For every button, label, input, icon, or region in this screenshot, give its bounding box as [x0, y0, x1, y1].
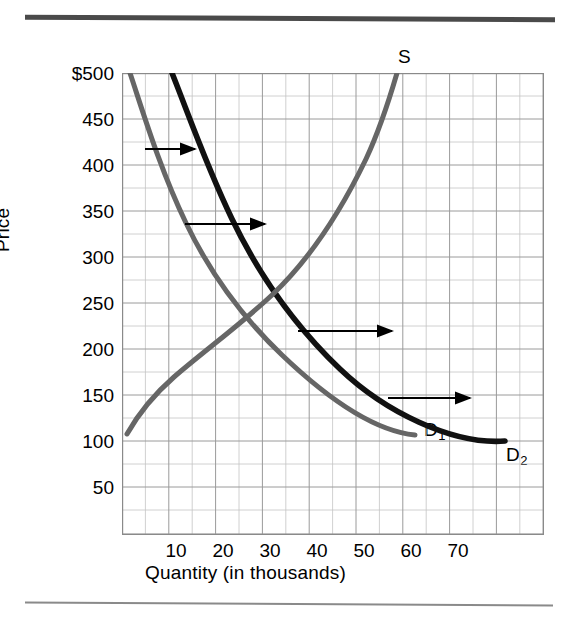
y-tick-50: 50 [44, 478, 114, 497]
x-tick-10: 10 [156, 541, 196, 560]
y-tick-500: $500 [44, 64, 114, 83]
x-tick-50: 50 [344, 541, 384, 560]
y-tick-250: 250 [44, 294, 114, 313]
y-tick-450: 450 [44, 110, 114, 129]
x-tick-60: 60 [391, 541, 431, 560]
y-axis-label: Price [0, 208, 14, 252]
plot-area [122, 73, 544, 535]
x-tick-30: 30 [250, 541, 290, 560]
grid-minor [122, 73, 544, 535]
y-tick-200: 200 [44, 340, 114, 359]
x-axis-tick-labels: 10 20 30 40 50 60 70 [122, 541, 544, 567]
y-tick-400: 400 [44, 156, 114, 175]
y-axis-tick-labels: $500 450 400 350 300 250 200 150 100 50 [44, 73, 114, 535]
y-tick-350: 350 [44, 202, 114, 221]
figure-bottom-rule [25, 601, 553, 606]
supply-curve-label: S [398, 47, 411, 66]
figure-container: Price Quantity (in thousands) $500 450 4… [0, 0, 581, 631]
x-tick-40: 40 [297, 541, 337, 560]
y-tick-100: 100 [44, 432, 114, 451]
x-tick-20: 20 [203, 541, 243, 560]
figure-top-rule [25, 15, 555, 22]
y-tick-300: 300 [44, 248, 114, 267]
x-tick-70: 70 [438, 541, 478, 560]
y-tick-150: 150 [44, 386, 114, 405]
